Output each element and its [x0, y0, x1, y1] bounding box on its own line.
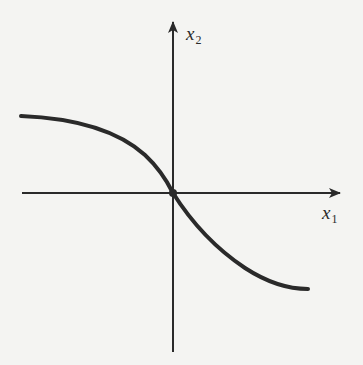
x1-label-subscript: 1 [331, 212, 337, 226]
origin-point [169, 189, 177, 197]
x1-axis-label: x1 [322, 203, 337, 225]
function-curve [21, 116, 308, 289]
x2-label-subscript: 2 [195, 33, 201, 47]
x1-label-base: x [322, 202, 330, 223]
x2-axis-label: x2 [186, 24, 201, 46]
x2-label-base: x [186, 23, 194, 44]
diagram-canvas [0, 0, 363, 365]
